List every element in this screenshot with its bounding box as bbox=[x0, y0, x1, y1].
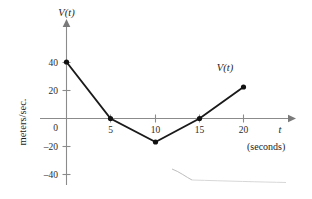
data-point-t5 bbox=[108, 116, 113, 121]
y-tick-label-20: 20 bbox=[49, 86, 59, 96]
y-axis-name-label: V(t) bbox=[58, 7, 75, 19]
x-tick-label-15: 15 bbox=[195, 125, 205, 135]
data-point-t0 bbox=[64, 59, 69, 64]
x-tick-label-20: 20 bbox=[239, 125, 249, 135]
data-point-t10 bbox=[153, 139, 158, 144]
y-tick-label-minus-40: –40 bbox=[43, 170, 59, 180]
figure-container: 40 20 0 –20 –40 5 10 15 20 V(t) t (secon… bbox=[0, 0, 312, 199]
y-tick-label-40: 40 bbox=[49, 58, 59, 68]
x-tick-label-5: 5 bbox=[108, 125, 113, 135]
data-point-t15 bbox=[197, 116, 202, 121]
x-axis-unit-label: (seconds) bbox=[247, 141, 285, 153]
y-tick-label-0: 0 bbox=[53, 123, 58, 133]
velocity-graph: 40 20 0 –20 –40 5 10 15 20 V(t) t (secon… bbox=[0, 0, 312, 199]
x-tick-label-10: 10 bbox=[151, 125, 161, 135]
data-point-t20 bbox=[241, 84, 246, 89]
curve-label: V(t) bbox=[217, 62, 234, 74]
y-axis-unit-label: meters/sec. bbox=[17, 99, 28, 146]
y-tick-label-minus-20: –20 bbox=[43, 142, 59, 152]
